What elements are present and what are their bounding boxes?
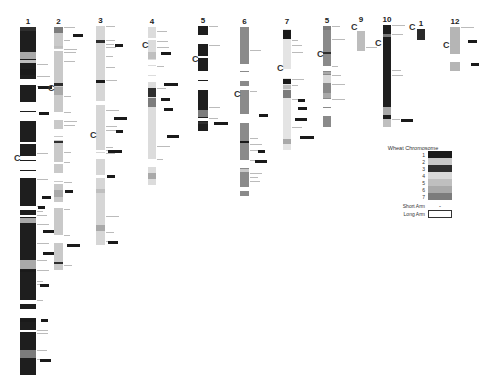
chromosome-band: [96, 225, 105, 231]
marker-tick: [106, 26, 115, 27]
chromosome-band: [240, 169, 249, 172]
chromosome-label: 6: [237, 17, 253, 26]
marker-tick: [64, 235, 70, 236]
legend-swatch: [428, 179, 452, 186]
marker-segment: [38, 206, 45, 209]
legend-short-arm: Short Arm -: [372, 202, 452, 209]
marker-tick: [106, 80, 117, 81]
marker-segment: [39, 112, 49, 115]
marker-tick: [292, 85, 298, 86]
legend-item-label: 6: [422, 187, 425, 193]
chromosome-bar: [283, 27, 291, 150]
chromosome-band: [323, 66, 331, 71]
marker-tick: [64, 265, 72, 266]
marker-tick: [292, 127, 302, 128]
marker-segment: [468, 40, 477, 43]
chromosome-band: [283, 27, 291, 29]
marker-tick: [209, 118, 218, 119]
chromosome-label: 10: [379, 15, 395, 24]
long-arm-swatch: [428, 210, 452, 218]
legend-item: 7: [372, 193, 452, 200]
chromosome-band: [96, 101, 105, 105]
chromosome-bar: [96, 26, 105, 245]
marker-segment: [161, 98, 170, 101]
legend-item: 5: [372, 179, 452, 186]
marker-tick: [37, 76, 50, 77]
marker-tick: [64, 40, 70, 41]
marker-tick: [157, 159, 163, 160]
marker-tick: [37, 211, 43, 212]
legend-item: 3: [372, 165, 452, 172]
chromosome-band: [323, 99, 331, 107]
chromosome-band: [240, 160, 249, 168]
chromosome-band: [148, 66, 156, 75]
marker-tick: [250, 50, 261, 51]
legend-item-label: 4: [422, 173, 425, 179]
marker-tick: [37, 243, 49, 244]
marker-segment: [259, 114, 268, 117]
marker-tick: [37, 330, 48, 331]
legend-swatch: [428, 193, 452, 200]
marker-tick: [37, 350, 47, 351]
marker-tick: [250, 144, 262, 145]
marker-tick: [64, 125, 75, 126]
chromosome-band: [283, 79, 291, 84]
chromosome-band: [383, 34, 391, 37]
chromosome-band: [54, 83, 63, 86]
chromosome-band: [283, 30, 291, 39]
legend-item: 4: [372, 172, 452, 179]
marker-tick: [106, 110, 119, 111]
chromosome-band: [20, 218, 36, 223]
marker-segment: [214, 122, 228, 125]
chromosome-bar: [357, 25, 365, 51]
chromosome-band: [148, 38, 156, 40]
marker-tick: [250, 181, 260, 182]
marker-tick: [64, 112, 71, 113]
chromosome-bar: [323, 26, 331, 127]
legend-long-arm: Long Arm: [372, 210, 452, 217]
marker-tick: [64, 52, 76, 53]
legend-item: 6: [372, 186, 452, 193]
short-arm-symbol: -: [428, 203, 452, 209]
chromosome-band: [283, 139, 291, 144]
chromosome-band: [96, 150, 105, 152]
chromosome-band: [148, 52, 156, 59]
centromere-label: C: [14, 153, 21, 163]
marker-tick: [106, 216, 119, 217]
legend-swatch: [428, 158, 452, 165]
chromosome-band: [283, 69, 291, 78]
chromosome-band: [20, 102, 36, 111]
centromere-label: C: [317, 49, 324, 59]
chromosome-band: [323, 75, 331, 83]
marker-tick: [37, 260, 47, 261]
marker-tick: [292, 79, 304, 80]
chromosome-band: [323, 108, 331, 116]
marker-segment: [295, 118, 307, 121]
centromere-label: C: [277, 63, 284, 73]
legend-items: 1234567: [372, 151, 452, 200]
chromosome-band: [240, 72, 249, 81]
chromosome-band: [54, 235, 63, 243]
chromosome-band: [198, 122, 208, 124]
marker-tick: [64, 162, 70, 163]
chromosome-band: [148, 88, 156, 97]
marker-segment: [164, 83, 178, 86]
chromosome-band: [20, 161, 36, 170]
marker-segment: [164, 108, 173, 111]
marker-tick: [37, 224, 49, 225]
centromere-label: C: [409, 22, 416, 32]
chromosome-band: [54, 112, 63, 120]
marker-tick: [37, 300, 43, 301]
marker-segment: [298, 99, 305, 102]
chromosome-band: [383, 119, 391, 127]
marker-tick: [106, 232, 114, 233]
chromosome-band: [96, 80, 105, 83]
chromosome-band: [20, 156, 36, 160]
legend: Wheat Chromosome 1234567 Short Arm - Lon…: [372, 145, 452, 217]
marker-tick: [37, 215, 47, 216]
chromosome-band: [240, 187, 249, 191]
chromosome-band: [198, 35, 208, 44]
marker-segment: [471, 63, 479, 66]
marker-tick: [209, 26, 218, 27]
marker-tick: [250, 177, 258, 178]
